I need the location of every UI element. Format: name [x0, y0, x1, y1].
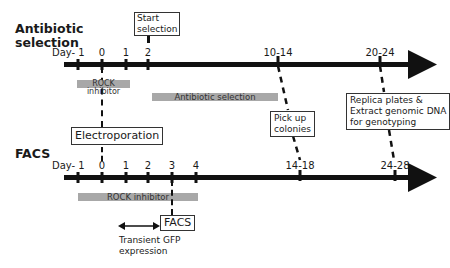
electroporation-connector — [101, 67, 103, 127]
bottom-tick — [77, 172, 80, 183]
replica-line2: Extract genomic DNA — [350, 106, 446, 117]
electroporation-box: Electroporation — [71, 127, 163, 145]
bottom-axis-line — [64, 175, 412, 180]
pick-line2: colonies — [274, 124, 311, 135]
electroporation-connector-lower — [101, 147, 103, 161]
start-selection-box: Start selection — [134, 12, 180, 36]
bottom-tick-label: 0 — [99, 160, 105, 171]
bottom-tick-label: - 1 — [71, 160, 84, 171]
bottom-arrow-head-icon — [408, 163, 437, 192]
start-selection-connector — [147, 36, 150, 43]
gfp-line1: Transient GFP — [119, 235, 181, 246]
gfp-line2: expression — [119, 246, 181, 257]
facs-connector — [171, 180, 173, 215]
pick-up-colonies-box: Pick up colonies — [270, 111, 315, 137]
top-arrow-head-icon — [408, 50, 437, 79]
top-rock-inhibitor-bar: ROCK inhibitor — [77, 80, 130, 88]
top-tick — [277, 56, 280, 67]
top-tick — [77, 59, 80, 70]
replica-plates-box: Replica plates & Extract genomic DNA for… — [346, 93, 450, 130]
bottom-tick — [101, 172, 104, 183]
replica-line1: Replica plates & — [350, 95, 446, 106]
replica-line3: for genotyping — [350, 117, 446, 128]
bottom-tick-label: 3 — [169, 160, 175, 171]
top-tick — [147, 59, 150, 70]
bottom-tick — [195, 172, 198, 183]
pick-line1: Pick up — [274, 113, 311, 124]
bottom-rock-inhibitor-bar: ROCK inhibitor — [78, 193, 198, 201]
facs-box: FACS — [160, 215, 195, 231]
bottom-tick — [394, 170, 397, 181]
antibiotic-selection-bar: Antibiotic selection — [152, 93, 278, 101]
start-selection-line1: Start — [137, 13, 177, 24]
bottom-tick-label: 1 — [123, 160, 129, 171]
bottom-tick — [299, 170, 302, 181]
bottom-tick-label: 2 — [145, 160, 151, 171]
bottom-day-label: Day — [52, 160, 72, 171]
bottom-tick — [147, 172, 150, 183]
bottom-title: FACS — [15, 146, 50, 161]
start-selection-line2: selection — [137, 24, 177, 35]
bottom-tick — [125, 172, 128, 183]
top-tick — [379, 56, 382, 67]
bottom-tick-label: 4 — [193, 160, 199, 171]
transient-gfp-label: Transient GFP expression — [119, 235, 181, 257]
top-tick — [125, 59, 128, 70]
